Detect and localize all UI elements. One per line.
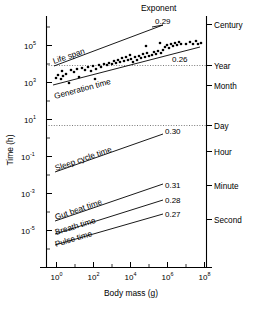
data-point [87,66,90,69]
data-point [100,66,103,69]
right-label-month: Month [214,82,237,91]
data-point [164,46,167,49]
data-point [55,77,58,80]
data-point [132,61,135,64]
data-point [108,62,111,65]
data-point [129,54,132,57]
exponent-pulse-time: 0.27 [165,210,181,219]
right-label-day: Day [214,122,229,131]
y-axis-title: Time (h) [5,134,15,165]
data-point [172,45,175,48]
data-point [62,75,65,78]
right-label-minute: Minute [214,182,239,191]
data-point [197,43,200,46]
data-point [98,64,101,67]
chart-svg: 105 103 101 10-1 10-3 10-5 Time (h) 100 … [0,0,274,315]
data-point [134,56,137,59]
data-point [142,53,145,56]
data-point [151,54,154,57]
data-point [146,52,149,55]
exponent-life-span: 0.29 [155,17,171,26]
data-point [160,52,163,55]
exponent-breath-time: 0.28 [165,196,181,205]
data-point [138,55,141,58]
exponent-sleep-cycle-time: 0.30 [165,127,181,136]
data-point [115,62,118,65]
data-point [140,57,143,60]
data-point [117,59,120,62]
data-point [68,82,71,85]
data-point [195,40,198,43]
data-point [174,42,177,45]
right-label-year: Year [214,62,231,71]
data-point [157,50,160,53]
data-point [57,74,60,77]
data-point [189,41,192,44]
data-point [73,71,76,74]
right-label-century: Century [214,21,244,30]
data-point [180,43,183,46]
data-point [61,70,64,73]
data-point [145,45,148,48]
data-point [185,43,188,46]
data-point [78,76,81,79]
data-point [113,60,116,63]
data-point [159,42,162,45]
data-point [130,58,133,61]
data-point [111,63,114,66]
data-point [90,70,93,73]
allometric-scaling-chart: 105 103 101 10-1 10-3 10-5 Time (h) 100 … [0,0,274,315]
data-point [155,53,158,56]
data-point [136,59,139,62]
data-point [95,68,98,71]
data-point [119,61,122,64]
exponent-gut-beat-time: 0.31 [165,181,181,190]
data-point [192,43,195,46]
data-point [178,41,181,44]
data-point [76,68,79,71]
data-point [144,56,147,59]
data-point [162,49,165,52]
x-axis-title: Body mass (g) [104,288,158,298]
data-point [200,42,203,45]
data-point [148,55,151,58]
data-point [121,57,124,60]
data-point [81,67,84,70]
data-point [65,73,68,76]
data-point [153,51,156,54]
data-point [125,56,128,59]
exponent-header: Exponent [141,3,177,13]
data-point [60,78,63,81]
data-point [168,47,171,50]
exponent-generation-time: 0.26 [172,55,188,64]
data-point [103,63,106,66]
data-point [92,65,95,68]
right-label-hour: Hour [214,148,232,157]
data-point [127,59,130,62]
data-point [106,64,109,67]
data-point [176,44,179,47]
right-label-second: Second [214,216,242,225]
data-point [170,43,173,46]
data-point [123,60,126,63]
data-point [84,69,87,72]
data-point [166,44,169,47]
data-point [70,69,73,72]
